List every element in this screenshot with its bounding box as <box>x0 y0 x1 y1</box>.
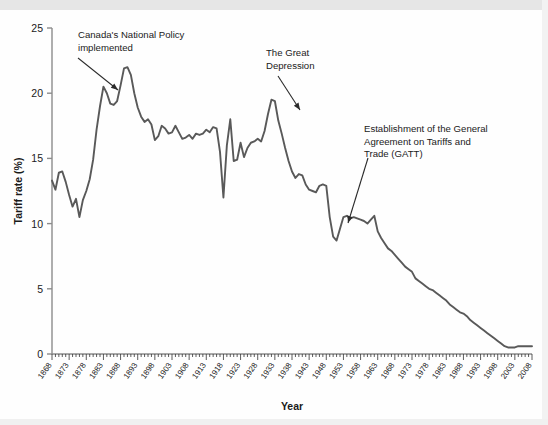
annotation-arrow-line <box>78 58 118 90</box>
annotation-text-line: implemented <box>78 42 133 53</box>
annotations-group: Canada's National PolicyimplementedThe G… <box>78 29 488 223</box>
x-tick-label: 1873 <box>53 361 71 381</box>
x-tick-label: 1978 <box>413 361 431 381</box>
x-axis-title: Year <box>281 400 303 412</box>
annotation-text-line: The Great <box>266 47 310 58</box>
x-tick-label: 1923 <box>225 361 243 381</box>
bottom-border-band <box>0 419 548 425</box>
x-tick-label: 1918 <box>207 361 225 381</box>
x-tick-label: 1993 <box>465 361 483 381</box>
tariff-rate-line <box>52 67 532 347</box>
x-tick-label: 1878 <box>70 361 88 381</box>
x-tick-label: 1868 <box>36 361 54 381</box>
x-tick-label: 1968 <box>379 361 397 381</box>
x-tick-label: 1983 <box>430 361 448 381</box>
x-tick-label: 1893 <box>122 361 140 381</box>
x-tick-label: 1958 <box>345 361 363 381</box>
x-tick-label: 1898 <box>139 361 157 381</box>
annotation-text-line: Establishment of the General <box>364 123 488 134</box>
x-tick-label: 2008 <box>516 361 534 381</box>
x-tick-label: 1933 <box>259 361 277 381</box>
x-tick-label: 1943 <box>293 361 311 381</box>
y-tick-label: 15 <box>31 152 43 164</box>
annotation-text-line: Canada's National Policy <box>78 29 185 40</box>
chart-page: 0510152025 18681873187818831888189318981… <box>0 0 548 425</box>
annotation-arrow-line <box>348 158 368 223</box>
x-tick-label: 1998 <box>482 361 500 381</box>
x-tick-label: 1963 <box>362 361 380 381</box>
annotation-text-line: Depression <box>266 60 315 71</box>
tariff-rate-line-chart: 0510152025 18681873187818831888189318981… <box>0 10 548 419</box>
x-tick-label: 1938 <box>276 361 294 381</box>
x-tick-label: 1973 <box>396 361 414 381</box>
x-tick-label: 1908 <box>173 361 191 381</box>
x-tick-labels: 1868187318781883188818931898190319081913… <box>36 361 534 381</box>
top-border-band <box>0 0 548 10</box>
annotation-text-line: Trade (GATT) <box>364 148 423 159</box>
y-tick-label: 0 <box>37 348 43 360</box>
x-tick-label: 2003 <box>499 361 517 381</box>
x-tick-label: 1928 <box>242 361 260 381</box>
annotation-arrow-head <box>294 103 300 110</box>
y-axis-title: Tariff rate (%) <box>12 158 24 225</box>
y-tick-label: 25 <box>31 22 43 34</box>
x-tick-label: 1913 <box>190 361 208 381</box>
axes-group <box>47 28 532 360</box>
x-tick-label: 1988 <box>447 361 465 381</box>
y-tick-label: 5 <box>37 283 43 295</box>
y-tick-label: 10 <box>31 218 43 230</box>
chart-svg: 0510152025 18681873187818831888189318981… <box>0 10 548 419</box>
x-tick-label: 1888 <box>105 361 123 381</box>
annotation-arrow-head <box>347 215 352 223</box>
x-tick-label: 1903 <box>156 361 174 381</box>
annotation-3: Establishment of the GeneralAgreement on… <box>347 123 487 223</box>
data-line-group <box>52 67 532 347</box>
y-tick-label: 20 <box>31 87 43 99</box>
x-tick-label: 1883 <box>87 361 105 381</box>
annotation-text-line: Agreement on Tariffs and <box>364 136 471 147</box>
x-tick-label: 1953 <box>327 361 345 381</box>
y-tick-labels: 0510152025 <box>31 22 43 360</box>
x-tick-label: 1948 <box>310 361 328 381</box>
